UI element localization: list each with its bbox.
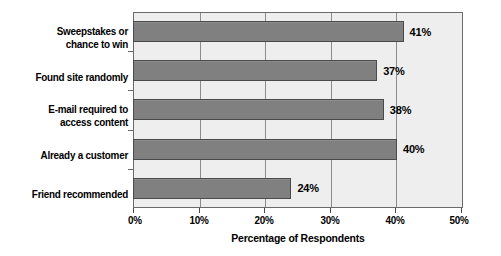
category-label-line: Friend recommended [8, 188, 128, 201]
x-tick-label-20: 20% [255, 214, 274, 226]
x-tick-label-50: 50% [449, 214, 468, 226]
category-label-already-a-customer: Already a customer [8, 149, 128, 162]
bar-friend-recommended [133, 178, 291, 199]
bar-row: 40% [133, 130, 463, 169]
x-tick [330, 208, 331, 213]
bar-value-label: 40% [403, 143, 424, 155]
bar-already-a-customer [133, 139, 397, 160]
category-label-line: Found site randomly [8, 71, 128, 84]
bars-layer: 41% 37% 38% 40% 24% [133, 12, 463, 208]
category-label-email-required: E-mail required to access content [8, 103, 128, 128]
category-label-line: E-mail required to [8, 103, 128, 116]
bar-found-site-randomly [133, 60, 377, 81]
x-tick [264, 208, 265, 213]
x-tick-label-40: 40% [386, 214, 405, 226]
category-label-line: Sweepstakes or [8, 25, 128, 38]
bar-row: 41% [133, 12, 463, 51]
x-tick [133, 208, 134, 213]
x-axis: 0% 10% 20% 30% 40% 50% [133, 208, 463, 228]
x-tick [199, 208, 200, 213]
x-tick-label-10: 10% [189, 214, 208, 226]
x-tick-label-30: 30% [320, 214, 339, 226]
bar-email-required [133, 99, 384, 120]
bar-chart: Sweepstakes or chance to win Found site … [0, 0, 501, 256]
category-label-line: access content [8, 116, 128, 129]
x-tick-label-0: 0% [128, 214, 142, 226]
x-axis-title: Percentage of Respondents [141, 232, 455, 244]
x-tick [395, 208, 396, 213]
bar-row: 38% [133, 90, 463, 129]
bar-value-label: 41% [410, 26, 431, 38]
category-label-friend-recommended: Friend recommended [8, 188, 128, 201]
category-label-line: chance to win [8, 38, 128, 51]
category-label-line: Already a customer [8, 149, 128, 162]
bar-value-label: 38% [390, 104, 411, 116]
bar-row: 37% [133, 51, 463, 90]
bar-value-label: 24% [297, 182, 318, 194]
category-label-sweepstakes: Sweepstakes or chance to win [8, 25, 128, 50]
bar-sweepstakes [133, 21, 404, 42]
x-tick [461, 208, 462, 213]
bar-row: 24% [133, 169, 463, 208]
category-label-found-site-randomly: Found site randomly [8, 71, 128, 84]
category-axis: Sweepstakes or chance to win Found site … [0, 12, 128, 208]
bar-value-label: 37% [383, 65, 404, 77]
